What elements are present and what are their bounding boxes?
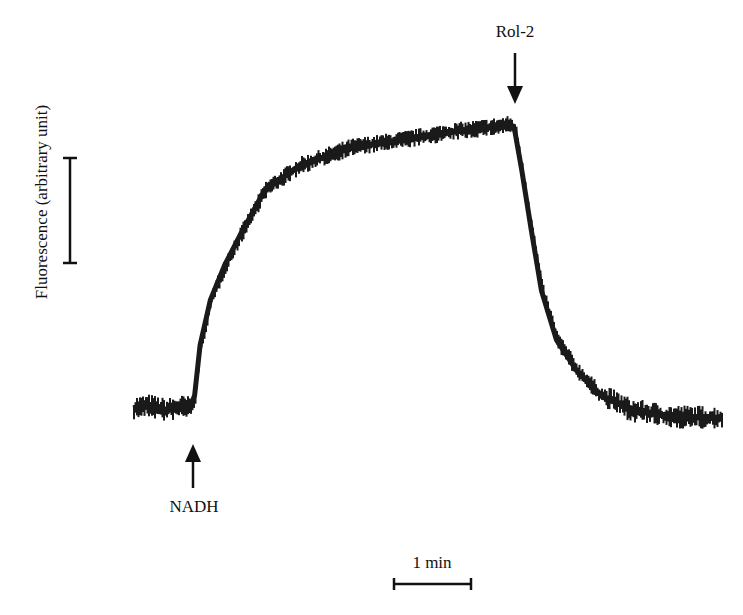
fluorescence-figure: Fluorescence (arbitrary unit) Rol-2 NADH… [0, 0, 743, 615]
time-scale-label: 1 min [412, 553, 451, 573]
fluorescence-scale-bar [63, 158, 77, 263]
rol2-label: Rol-2 [496, 22, 535, 42]
chart-canvas [0, 0, 743, 615]
fluorescence-trace [133, 116, 723, 429]
nadh-arrow-icon [185, 444, 201, 488]
nadh-label: NADH [169, 497, 218, 517]
time-scale-bar [394, 578, 471, 590]
rol2-arrow-icon [507, 53, 523, 104]
